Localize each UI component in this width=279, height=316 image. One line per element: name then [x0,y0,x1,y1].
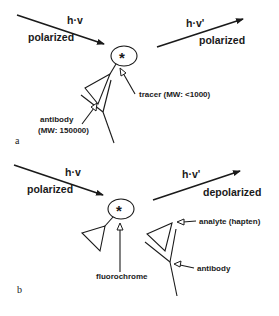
antibody-label-line1: antibody [40,115,74,124]
tracer-label: tracer (MW: <1000) [139,90,211,99]
fluorochrome-star: * [116,202,122,219]
analyte-pointer-arrow-icon [177,219,184,225]
emitted-light-symbol: h·v' [186,17,204,29]
tracer-pointer-arrow-icon [120,68,126,76]
antibody-arm-right [170,229,176,262]
analyte-pointer-line [183,221,196,222]
antibody-pointer-arrow-icon [91,103,97,111]
panel-label-a: a [15,135,20,146]
incident-light-symbol: h·v [65,166,81,178]
fluorescence-polarization-diagram: h·v polarized h·v' polarized * tracer (M… [0,0,279,316]
emitted-light-symbol: h·v' [182,168,200,180]
antibody-pointer-line [82,108,94,124]
incident-light-state: polarized [28,31,74,43]
panel-label-b: b [17,284,22,295]
antibody-label-line2: (MW: 150000) [38,126,89,135]
panel-b: h·v polarized h·v' depolarized * fluoroc… [14,165,261,296]
emitted-light-state: polarized [199,34,245,46]
antibody-stem [103,112,114,143]
panel-a: h·v polarized h·v' polarized * tracer (M… [15,14,245,146]
emitted-light-state: depolarized [203,186,261,198]
tracer-star: * [119,49,125,66]
antibody-label: antibody [197,264,231,273]
tracer-pointer-line [123,73,135,94]
fluorochrome-pointer-arrow-icon [117,223,123,230]
antibody-arm-left [81,95,103,112]
analyte-label: analyte (hapten) [199,217,261,226]
free-hapten-triangle-icon [82,226,105,251]
incident-light-symbol: h·v [67,14,83,26]
tracer-link [110,64,116,74]
antibody-pointer-line [180,265,194,268]
fluorochrome-label: fluorochrome [96,272,148,281]
antibody-arm-right [103,80,111,112]
antibody-stem [170,262,177,296]
antibody-pointer-arrow-icon [174,261,181,267]
incident-light-state: polarized [27,183,73,195]
fluorochrome-link [105,217,113,226]
